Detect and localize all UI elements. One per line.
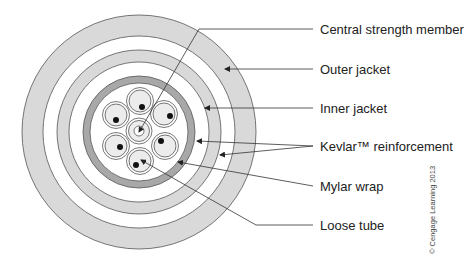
fiber-dot [117, 144, 123, 150]
label-central-strength-member: Central strength member [320, 23, 464, 36]
label-kevlar-reinforcement: Kevlar™ reinforcement [320, 140, 453, 153]
label-mylar-wrap: Mylar wrap [320, 180, 384, 193]
loose-tube [103, 133, 130, 160]
label-outer-jacket: Outer jacket [320, 63, 390, 76]
fiber-dot [133, 162, 139, 168]
fiber-dot [167, 113, 173, 119]
loose-tube [103, 102, 130, 129]
loose-tube [127, 88, 154, 115]
fiber-dot [139, 104, 145, 110]
fiber-dot [158, 138, 164, 144]
central-strength-member [126, 118, 152, 144]
label-loose-tube: Loose tube [320, 219, 384, 232]
loose-tube [127, 148, 154, 175]
label-inner-jacket: Inner jacket [320, 102, 387, 115]
fiber-dot [113, 117, 119, 123]
copyright-notice: © Cengage Learning 2013 [428, 166, 437, 254]
loose-tube [152, 133, 179, 160]
